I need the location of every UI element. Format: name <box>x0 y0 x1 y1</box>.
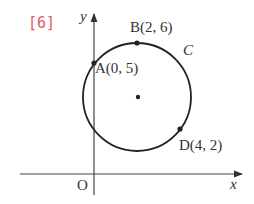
circle-label: C <box>183 42 193 59</box>
point-b <box>134 40 139 45</box>
origin-label: O <box>77 177 88 194</box>
point-a-label: A(0, 5) <box>95 60 138 77</box>
y-axis-label: y <box>80 8 87 25</box>
point-d <box>177 126 182 131</box>
point-b-label: B(2, 6) <box>130 19 173 36</box>
point-d-label: D(4, 2) <box>179 137 222 154</box>
center-point <box>136 95 140 99</box>
x-axis-label: x <box>230 176 237 193</box>
problem-number: [6] <box>28 14 55 32</box>
